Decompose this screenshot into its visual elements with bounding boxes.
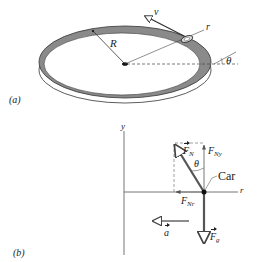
velocity-label: v — [154, 7, 158, 17]
normal-force-r-label: FNr — [181, 196, 195, 208]
car-leader-line — [205, 176, 217, 190]
car-label: Car — [218, 170, 235, 182]
radius-label: R — [110, 38, 117, 49]
normal-force-label: FN — [183, 146, 194, 158]
r-axis-label: r — [240, 186, 244, 195]
normal-force-y-label: FNy — [208, 146, 222, 158]
gravity-force-label: Fg — [210, 232, 220, 244]
bank-angle-label: θ — [226, 55, 231, 66]
angle-label: θ — [194, 159, 199, 169]
part-a-label: (a) — [9, 95, 21, 105]
part-b-label: (b) — [13, 248, 25, 258]
radial-label: r — [206, 22, 210, 32]
bank-angle-line — [214, 52, 236, 64]
car-point — [202, 190, 207, 195]
acceleration-label: a — [164, 228, 169, 238]
banked-curve-diagram — [0, 0, 261, 262]
y-axis-label: y — [121, 122, 125, 131]
